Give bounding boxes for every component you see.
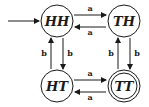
svg-text:TH: TH (113, 14, 136, 29)
edge-label-HH-TH: a (87, 3, 92, 13)
state-TH: TH (108, 5, 140, 37)
edge-label-TT-TH: b (108, 48, 114, 58)
state-HT: HT (41, 70, 73, 102)
edge-label-HT-HH: b (41, 48, 47, 58)
svg-text:TT: TT (115, 79, 135, 94)
svg-text:HH: HH (44, 14, 70, 29)
automaton-diagram: HH TH HT TT a a a a b b b b (0, 0, 149, 107)
state-HH: HH (41, 5, 73, 37)
edge-label-TH-HH: a (87, 27, 92, 37)
edge-label-TT-HT: a (87, 92, 92, 102)
edge-label-HT-TT: a (87, 68, 92, 78)
edge-label-HH-HT: b (67, 48, 73, 58)
diagram-svg: HH TH HT TT a a a a b b b b (0, 0, 149, 107)
edge-label-TH-TT: b (134, 48, 140, 58)
svg-text:HT: HT (45, 79, 69, 94)
state-TT-accepting: TT (108, 70, 140, 102)
